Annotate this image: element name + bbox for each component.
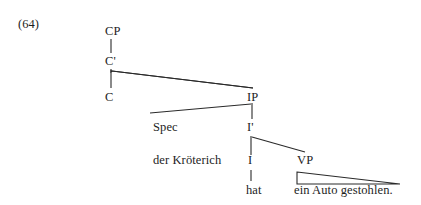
tree-edges [0, 0, 421, 205]
edge-cbar-to-ip [112, 71, 253, 88]
edge-cbar-branch [111, 69, 253, 88]
node-label-i: I [248, 154, 252, 167]
node-label-ibar: I' [247, 121, 254, 134]
edge-ip-to-spec [150, 104, 251, 113]
node-label-spec: Spec [153, 121, 178, 134]
node-label-ip: IP [247, 91, 258, 104]
example-number: (64) [18, 18, 39, 31]
terminal-i-content: hat [246, 184, 262, 197]
node-label-cp: CP [105, 25, 121, 38]
terminal-vp-content: ein Auto gestohlen. [294, 184, 393, 197]
terminal-spec-content: der Kröterich [153, 154, 221, 167]
node-label-vp: VP [297, 154, 313, 167]
node-label-cbar: C' [105, 55, 116, 68]
syntax-tree-figure: (64) CP C' C IP Spec I' der Kröterich I … [0, 0, 421, 205]
node-label-c: C [105, 91, 113, 104]
edge-ibar-to-vp [252, 137, 305, 152]
